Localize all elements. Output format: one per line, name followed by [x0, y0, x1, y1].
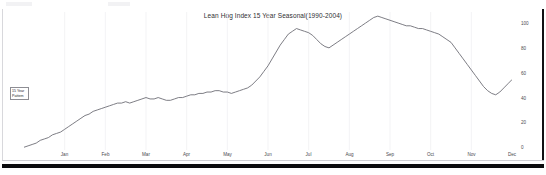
chart-screenshot: Lean Hog Index 15 Year Seasonal(1990-200…	[0, 0, 546, 175]
x-tick-may: May	[223, 152, 232, 157]
x-tick-jun: Jun	[264, 152, 271, 157]
plot-area	[24, 12, 512, 150]
y-axis-labels: 100806040200	[517, 12, 543, 150]
x-tick-feb: Feb	[102, 152, 110, 157]
y-tick-0: 0	[521, 144, 524, 149]
top-artifact-left	[6, 2, 32, 6]
frame-left-border	[2, 9, 3, 161]
x-axis-labels: JanFebMarAprMayJunJulAugSepOctNovDec	[24, 152, 512, 162]
x-tick-mar: Mar	[142, 152, 150, 157]
x-tick-aug: Aug	[345, 152, 353, 157]
axis-baseline-bar	[2, 164, 544, 168]
top-artifact-center	[108, 2, 130, 6]
series-svg	[24, 12, 512, 150]
x-tick-jan: Jan	[61, 152, 68, 157]
x-tick-jul: Jul	[306, 152, 312, 157]
x-tick-dec: Dec	[508, 152, 516, 157]
y-tick-100: 100	[521, 21, 529, 26]
y-tick-80: 80	[521, 45, 526, 50]
x-tick-apr: Apr	[183, 152, 190, 157]
x-tick-nov: Nov	[467, 152, 475, 157]
x-tick-sep: Sep	[386, 152, 394, 157]
gridlines	[65, 12, 472, 150]
y-tick-20: 20	[521, 120, 526, 125]
y-tick-40: 40	[521, 95, 526, 100]
x-tick-oct: Oct	[427, 152, 434, 157]
y-tick-60: 60	[521, 70, 526, 75]
